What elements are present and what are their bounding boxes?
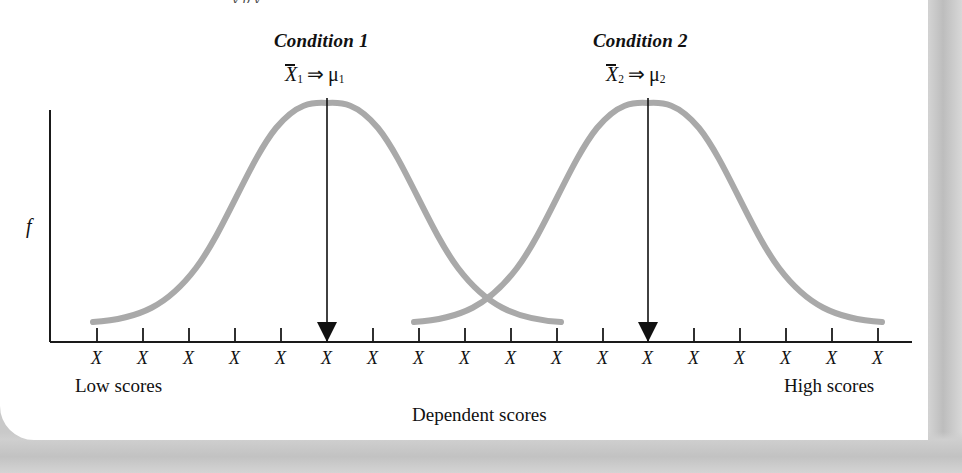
x-bar-2: X — [606, 63, 618, 85]
condition-2-title: Condition 2 — [593, 30, 688, 52]
x-tick-label: X — [367, 348, 378, 369]
condition-1-mean-arrow — [317, 98, 337, 342]
x-tick-label: X — [183, 348, 194, 369]
overbar-1 — [285, 64, 295, 66]
x-bar-1-symbol: X — [285, 63, 297, 85]
distribution-plot-svg — [0, 0, 928, 440]
x-tick-label: X — [229, 348, 240, 369]
x-axis-title: Dependent scores — [412, 404, 547, 426]
x-bar-1: X — [285, 63, 297, 85]
x-tick-label: X — [321, 348, 332, 369]
condition-2-mean-arrow — [638, 98, 658, 342]
condition-2-mean-notation: X2⇒μ2 — [606, 62, 665, 86]
x-tick-label: X — [872, 348, 883, 369]
x-tick-label: X — [275, 348, 286, 369]
x-tick-label: X — [413, 348, 424, 369]
overbar-2 — [606, 64, 616, 66]
x-tick-label: X — [597, 348, 608, 369]
x-tick-label: X — [642, 348, 653, 369]
page-corner-mask — [0, 404, 46, 473]
low-scores-label: Low scores — [75, 375, 162, 397]
x-bar-2-symbol: X — [606, 63, 618, 85]
x-tick-label: X — [459, 348, 470, 369]
mu-1-symbol: μ — [328, 63, 339, 85]
x-tick-label: X — [505, 348, 516, 369]
mu-1-subscript: 1 — [339, 73, 345, 85]
x-tick-label: X — [91, 348, 102, 369]
mu-2-symbol: μ — [649, 63, 660, 85]
x-tick-label: X — [826, 348, 837, 369]
statistics-figure: Condition 1 X1⇒μ1 Condition 2 X2⇒μ2 f XX… — [0, 0, 928, 440]
mu-2-subscript: 2 — [660, 73, 666, 85]
x-tick-label: X — [734, 348, 745, 369]
condition-1-mean-notation: X1⇒μ1 — [285, 62, 344, 86]
x-axis-tick-marks — [97, 328, 878, 342]
page-sheet: y p y — [0, 0, 928, 440]
x-tick-label: X — [551, 348, 562, 369]
x-tick-label: X — [780, 348, 791, 369]
x-tick-label: X — [137, 348, 148, 369]
y-axis-label: f — [26, 215, 32, 238]
condition-1-title: Condition 1 — [274, 30, 369, 52]
screenshot-stage: y p y — [0, 0, 962, 473]
implies-arrow-1: ⇒ — [303, 63, 328, 85]
implies-arrow-2: ⇒ — [624, 63, 649, 85]
x-tick-label: X — [688, 348, 699, 369]
high-scores-label: High scores — [784, 375, 874, 397]
